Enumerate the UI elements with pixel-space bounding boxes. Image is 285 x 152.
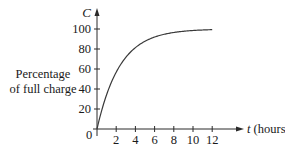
y-axis-title-line-1: Percentage xyxy=(0,67,86,82)
x-tick-label: 4 xyxy=(132,133,139,147)
x-tick-label: 10 xyxy=(187,133,200,147)
y-axis-title-line-2: of full charge xyxy=(0,82,86,97)
charge-curve xyxy=(97,30,212,129)
chart: Percentage of full charge 24681012204060… xyxy=(0,0,285,152)
y-axis-variable: C xyxy=(82,5,91,20)
x-tick-label: 8 xyxy=(171,133,177,147)
x-tick-label: 6 xyxy=(151,133,157,147)
y-tick-label: 20 xyxy=(79,102,92,116)
x-tick-label: 2 xyxy=(113,133,119,147)
y-axis-title: Percentage of full charge xyxy=(0,67,86,97)
origin-label: 0 xyxy=(86,128,92,142)
y-axis-arrow-icon xyxy=(95,8,100,16)
y-tick-label: 80 xyxy=(79,42,92,56)
x-axis-arrow-icon xyxy=(236,127,244,132)
y-tick-label: 100 xyxy=(72,22,91,36)
axis-labels: 24681012204060801000Ct (hours) xyxy=(72,5,285,147)
x-tick-label: 12 xyxy=(206,133,219,147)
x-axis-title: t (hours) xyxy=(247,122,285,136)
